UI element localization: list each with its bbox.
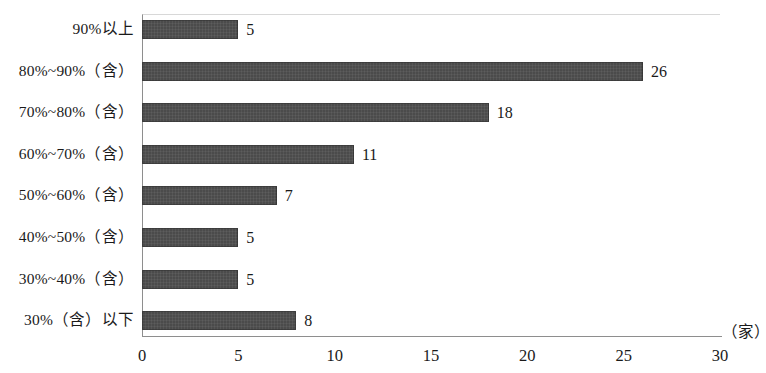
bar xyxy=(142,145,354,164)
category-label: 30%~40%（含） xyxy=(19,270,134,288)
category-label: 90%以上 xyxy=(73,20,134,38)
bar xyxy=(142,186,277,205)
category-label: 60%~70%（含） xyxy=(19,145,134,163)
bar xyxy=(142,103,489,122)
bar-value-label: 7 xyxy=(285,186,293,205)
bar-value-label: 5 xyxy=(246,20,254,39)
x-axis-tick-labels: 051015202530 xyxy=(0,344,766,370)
bar xyxy=(142,228,238,247)
bar xyxy=(142,311,296,330)
category-axis-labels: 90%以上80%~90%（含）70%~80%（含）60%~70%（含）50%~6… xyxy=(0,0,138,337)
category-label: 80%~90%（含） xyxy=(19,62,134,80)
bar-value-label: 18 xyxy=(497,103,513,122)
x-tick-label: 0 xyxy=(138,344,146,368)
bar-value-label: 5 xyxy=(246,270,254,289)
bar-value-label: 11 xyxy=(362,145,377,164)
x-tick-label: 10 xyxy=(326,344,343,368)
x-tick-label: 15 xyxy=(423,344,440,368)
bar xyxy=(142,270,238,289)
x-tick-label: 20 xyxy=(519,344,536,368)
bar-value-label: 8 xyxy=(304,311,312,330)
bar-series: 52618117558 xyxy=(142,0,766,337)
bar xyxy=(142,20,238,39)
bar xyxy=(142,62,643,81)
x-tick-label: 30 xyxy=(712,344,729,368)
category-label: 40%~50%（含） xyxy=(19,228,134,246)
bar-value-label: 26 xyxy=(651,62,667,81)
x-axis-unit-label: （家） xyxy=(722,322,766,342)
category-label: 30%（含）以下 xyxy=(24,311,134,329)
bar-value-label: 5 xyxy=(246,228,254,247)
category-label: 50%~60%（含） xyxy=(19,186,134,204)
x-tick-label: 5 xyxy=(234,344,242,368)
category-label: 70%~80%（含） xyxy=(19,103,134,121)
x-tick-label: 25 xyxy=(615,344,632,368)
bar-chart: 90%以上80%~90%（含）70%~80%（含）60%~70%（含）50%~6… xyxy=(0,0,766,373)
